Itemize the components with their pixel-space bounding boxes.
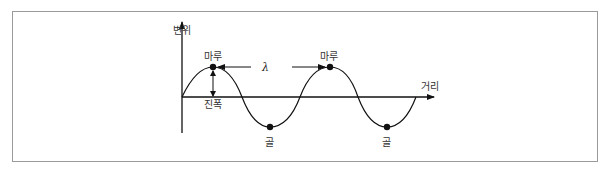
crest-point-1: [210, 64, 216, 70]
x-axis-label: 거리: [421, 81, 439, 92]
trough-label-1: 골: [265, 137, 274, 148]
crest-label-2: 마루: [320, 51, 338, 62]
wave-diagram: 변위 거리 마루 마루 골 골 진폭 λ: [0, 0, 611, 174]
amplitude-label: 진폭: [204, 99, 222, 110]
wavelength-label: λ: [261, 61, 269, 74]
y-axis-label: 변위: [173, 24, 191, 36]
crest-label-1: 마루: [204, 51, 222, 62]
trough-point-1: [267, 124, 273, 130]
crest-point-2: [327, 64, 333, 70]
trough-point-2: [384, 124, 390, 130]
trough-label-2: 골: [382, 137, 391, 148]
